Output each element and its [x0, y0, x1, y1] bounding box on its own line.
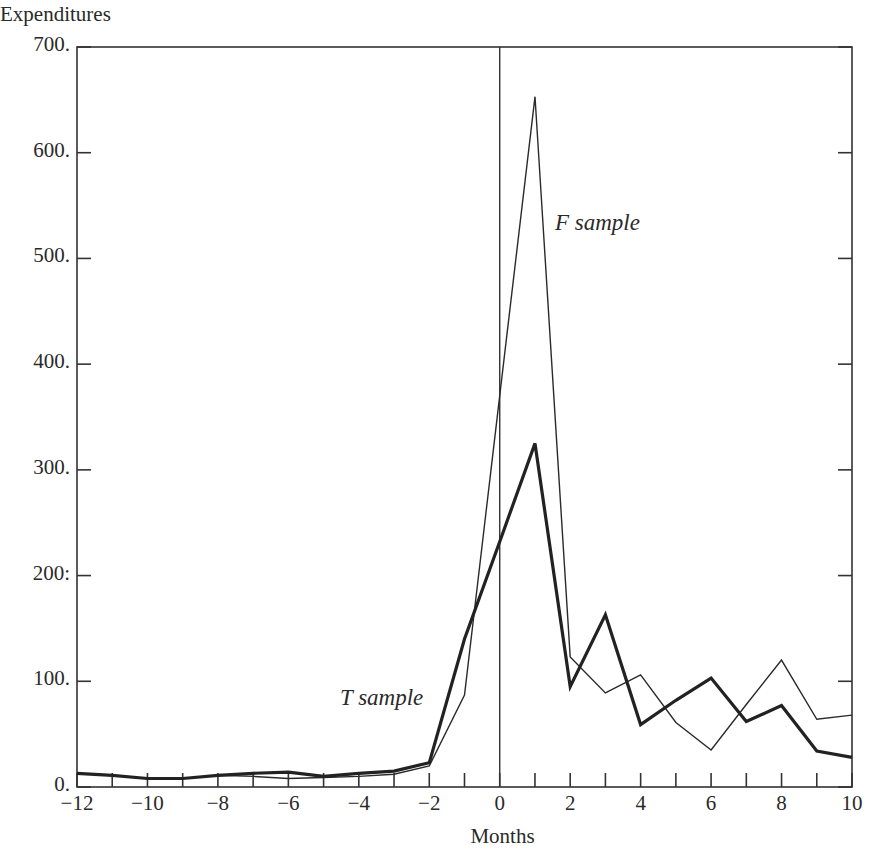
y-tick-label: 600.	[0, 140, 70, 161]
x-tick-label: −10	[117, 793, 177, 814]
x-tick-label: 2	[540, 793, 600, 814]
y-tick-label: 200:	[0, 563, 70, 584]
plot-border	[77, 47, 852, 787]
x-tick-label: −6	[258, 793, 318, 814]
x-tick-label: −4	[329, 793, 389, 814]
t-sample-label: T sample	[340, 685, 423, 711]
x-tick-label: 6	[681, 793, 741, 814]
x-axis-title: Months	[0, 824, 875, 849]
y-tick-label: 500.	[0, 245, 70, 266]
y-tick-label: 700.	[0, 34, 70, 55]
y-tick-label: 400.	[0, 351, 70, 372]
x-tick-label: 10	[822, 793, 875, 814]
y-tick-label: 100.	[0, 668, 70, 689]
f-sample-label: F sample	[555, 210, 640, 236]
line-chart	[0, 0, 875, 861]
f-sample-line	[77, 97, 852, 779]
y-tick-label: 0.	[0, 774, 70, 795]
y-tick-label: 300.	[0, 457, 70, 478]
x-tick-label: −2	[399, 793, 459, 814]
t-sample-line	[77, 443, 852, 778]
x-tick-label: −12	[47, 793, 107, 814]
x-tick-label: −8	[188, 793, 248, 814]
y-axis-title: Expenditures	[0, 2, 111, 27]
x-tick-label: 4	[611, 793, 671, 814]
x-tick-label: 8	[752, 793, 812, 814]
plot-frame	[77, 47, 852, 787]
x-tick-label: 0	[470, 793, 530, 814]
axis-ticks	[77, 47, 852, 787]
